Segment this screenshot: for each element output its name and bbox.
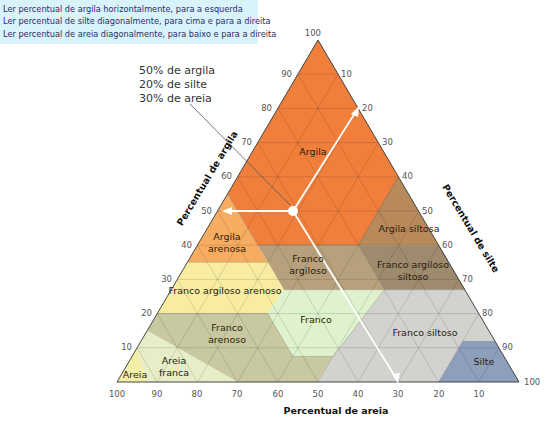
svg-text:100: 100 xyxy=(524,377,540,387)
svg-text:40: 40 xyxy=(181,240,192,250)
svg-text:10: 10 xyxy=(341,69,352,79)
svg-text:90: 90 xyxy=(152,389,163,399)
silt-axis-title: Percentual de silte xyxy=(440,182,501,274)
example-point xyxy=(288,206,298,216)
svg-text:30: 30 xyxy=(393,389,404,399)
svg-text:50: 50 xyxy=(313,389,324,399)
label-franco-argiloso-siltoso-1: Franco argiloso xyxy=(377,259,449,270)
label-argila-arenosa-1: Argila xyxy=(213,231,240,242)
label-argila-siltosa: Argila siltosa xyxy=(379,223,440,234)
svg-text:20: 20 xyxy=(362,103,373,113)
label-franco-argiloso-siltoso-2: siltoso xyxy=(398,271,429,282)
soil-texture-triangle: 10 20 30 40 50 60 70 80 90 100 10 20 30 … xyxy=(0,0,553,429)
svg-text:100: 100 xyxy=(305,28,321,38)
svg-text:20: 20 xyxy=(434,389,445,399)
svg-text:60: 60 xyxy=(221,171,232,181)
label-franco-argiloso-arenoso: Franco argiloso arenoso xyxy=(169,285,282,296)
label-argila: Argila xyxy=(299,146,326,157)
svg-text:70: 70 xyxy=(232,389,243,399)
svg-text:20: 20 xyxy=(141,308,152,318)
label-franco-argiloso-1: Franco xyxy=(292,253,324,264)
label-franco: Franco xyxy=(300,314,332,325)
svg-text:90: 90 xyxy=(281,69,292,79)
svg-text:80: 80 xyxy=(261,103,272,113)
svg-text:80: 80 xyxy=(192,389,203,399)
sand-tick-labels: 100 90 80 70 60 50 40 30 20 10 xyxy=(109,389,485,399)
label-franco-arenoso-2: arenoso xyxy=(208,334,246,345)
svg-text:100: 100 xyxy=(109,389,125,399)
svg-text:80: 80 xyxy=(482,308,493,318)
label-franco-argiloso-2: argiloso xyxy=(289,265,327,276)
sand-axis-title: Percentual de areia xyxy=(284,405,389,416)
svg-text:10: 10 xyxy=(121,342,132,352)
label-areia: Areia xyxy=(123,369,148,380)
svg-text:60: 60 xyxy=(273,389,284,399)
svg-text:70: 70 xyxy=(241,137,252,147)
svg-text:90: 90 xyxy=(502,342,513,352)
label-areia-franca-1: Areia xyxy=(162,355,187,366)
svg-text:40: 40 xyxy=(353,389,364,399)
label-areia-franca-2: franca xyxy=(159,367,189,378)
svg-text:30: 30 xyxy=(161,274,172,284)
svg-text:50: 50 xyxy=(201,206,212,216)
svg-text:30: 30 xyxy=(382,137,393,147)
svg-text:50: 50 xyxy=(422,206,433,216)
label-silte: Silte xyxy=(474,356,495,367)
label-franco-arenoso-1: Franco xyxy=(211,322,243,333)
svg-text:10: 10 xyxy=(474,389,485,399)
label-argila-arenosa-2: arenosa xyxy=(208,243,246,254)
svg-text:40: 40 xyxy=(402,171,413,181)
svg-text:60: 60 xyxy=(442,240,453,250)
svg-text:70: 70 xyxy=(462,274,473,284)
label-franco-siltoso: Franco siltoso xyxy=(392,327,457,338)
